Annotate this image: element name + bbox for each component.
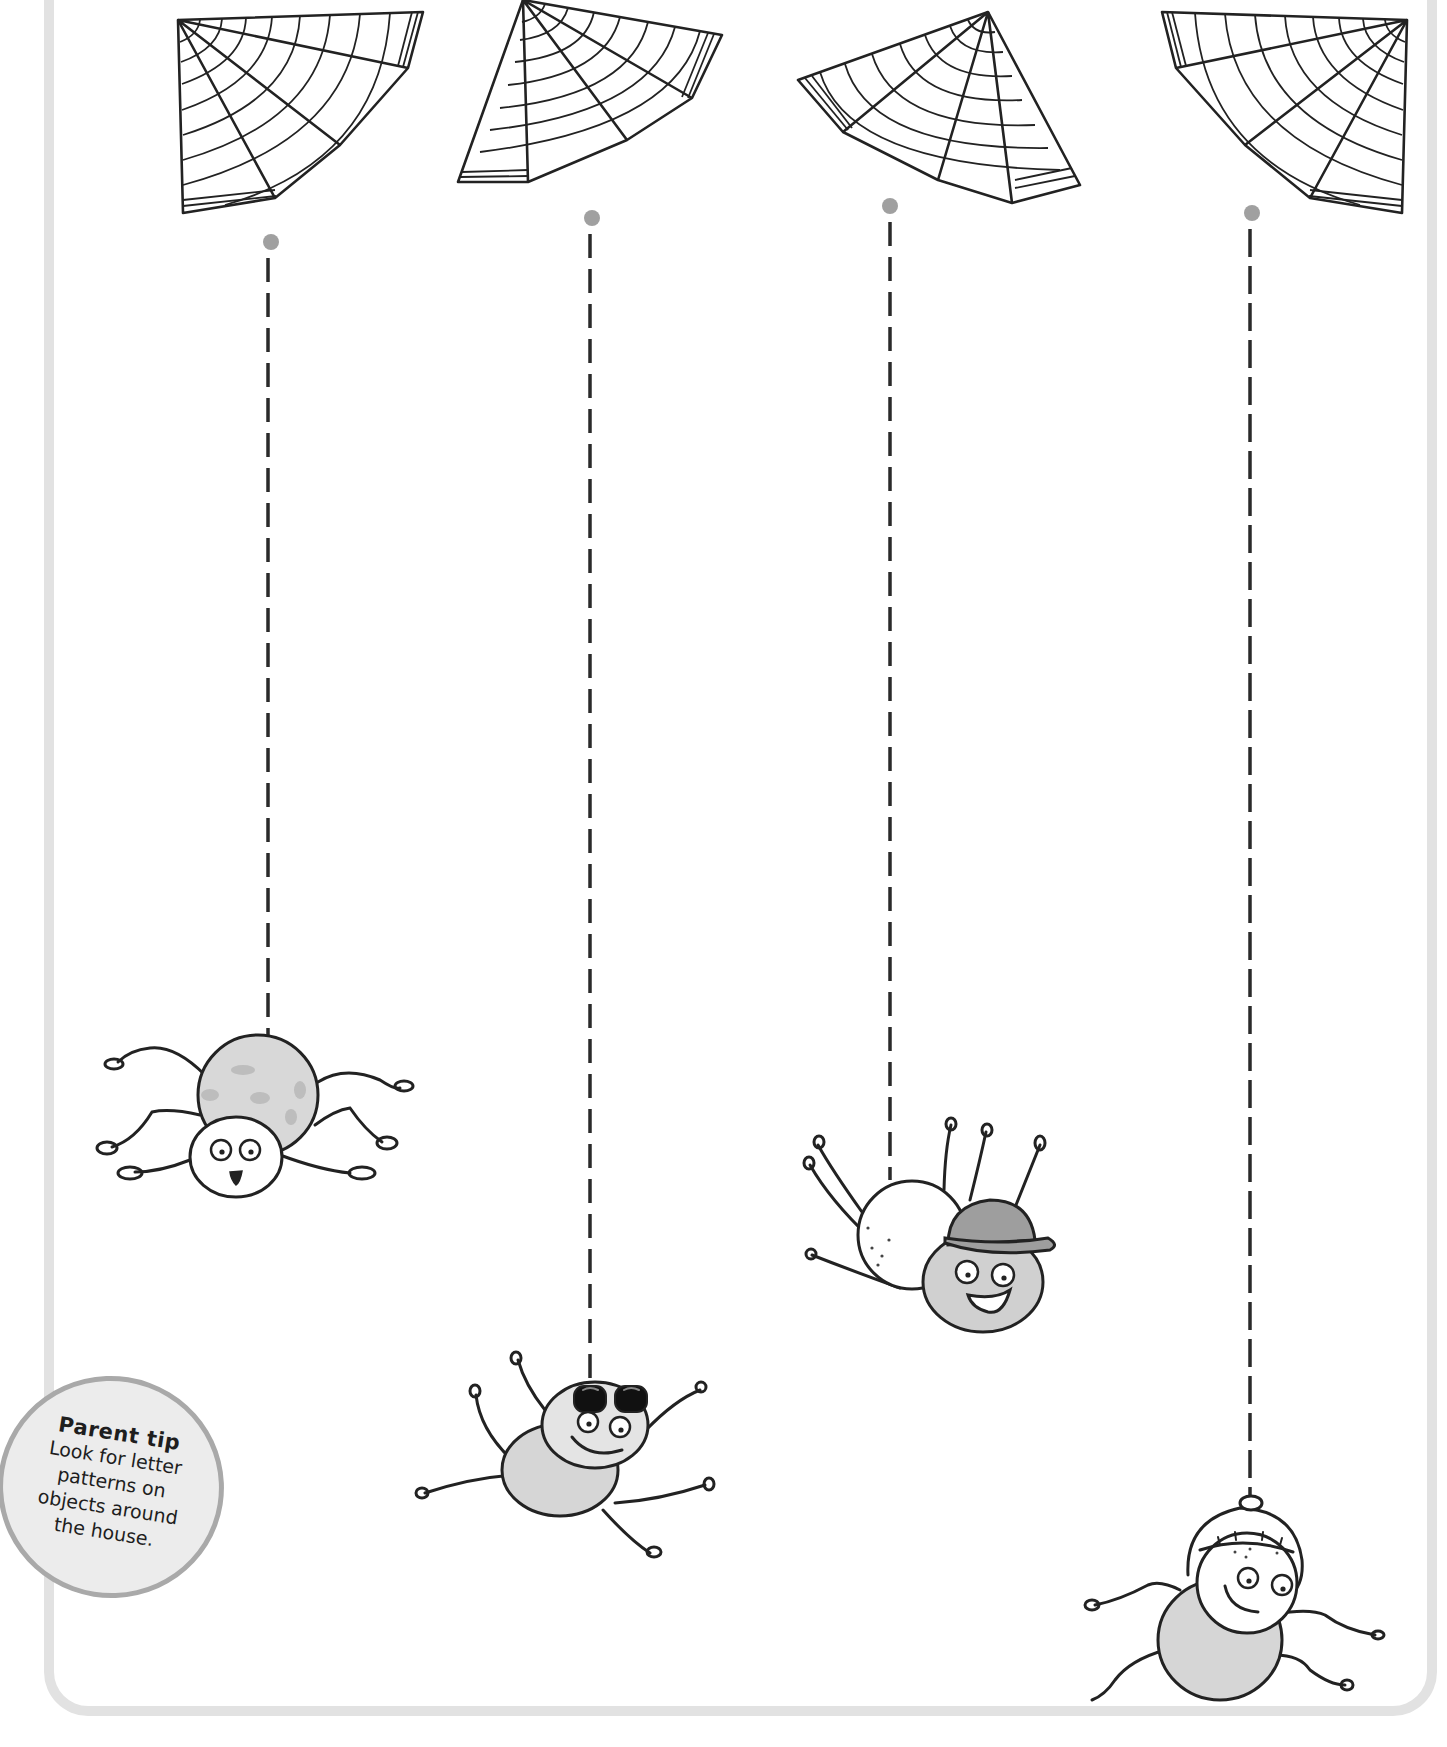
helmet-spider-icon (1085, 1496, 1384, 1700)
spider-web-2-icon (458, 0, 722, 182)
spider-web-1-icon (178, 12, 423, 213)
spider-web-4-icon (1162, 12, 1407, 213)
surprised-spider-icon (97, 1035, 413, 1197)
thread-start-dot-3 (882, 198, 898, 214)
trace-threads (263, 198, 1260, 1500)
thread-start-dot-1 (263, 234, 279, 250)
thread-start-dot-2 (584, 210, 600, 226)
thread-start-dot-4 (1244, 205, 1260, 221)
sunglasses-spider-icon (416, 1352, 714, 1557)
spider-web-3-icon (798, 12, 1080, 203)
bowler-hat-spider-icon (804, 1118, 1055, 1332)
